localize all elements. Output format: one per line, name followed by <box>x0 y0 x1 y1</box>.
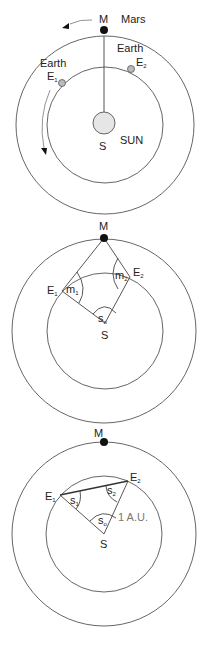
earth-e1-marker-label: E1 <box>45 490 56 503</box>
angle-s2-label: s2 <box>107 484 117 497</box>
earth-motion-arrowhead-icon <box>41 148 47 155</box>
earth-e2-name-label: Earth <box>117 42 143 54</box>
distance-au-label: 1 A.U. <box>118 511 148 523</box>
mars-marker-label: M <box>94 427 103 439</box>
earth-e1-marker-label: E1 <box>47 70 58 83</box>
earth-e2-planet-icon <box>128 66 135 73</box>
angle-arc-s0 <box>93 307 116 314</box>
mars-planet-icon <box>100 438 108 446</box>
sun-marker-label: S <box>99 140 106 152</box>
mars-marker-label: M <box>99 13 108 25</box>
earth-e2-marker-label: E2 <box>133 266 144 279</box>
mars-planet-icon <box>100 234 108 242</box>
parallax-diagram-figure: S SUN M Mars Earth E1 Earth E2 <box>0 0 206 647</box>
angle-m1-label: m1 <box>66 283 79 296</box>
diagram-orbits-overview: S SUN M Mars Earth E1 Earth E2 <box>16 13 194 214</box>
sun-icon <box>93 112 115 134</box>
earth-e2-marker-label: E2 <box>136 56 147 69</box>
mars-name-label: Mars <box>121 13 146 25</box>
angle-arc-m1 <box>77 272 83 303</box>
mars-motion-arrowhead-icon <box>62 23 69 29</box>
diagram-earth-triangle: M E1 E2 S s1 s2 so 1 A.U. <box>12 427 196 626</box>
sun-marker-label: S <box>100 538 107 550</box>
earth-e1-marker-label: E1 <box>47 284 58 297</box>
earth-e1-name-label: Earth <box>40 57 66 69</box>
mars-marker-label: M <box>99 220 108 232</box>
angle-s0-label: so <box>98 514 108 527</box>
sun-name-label: SUN <box>120 134 143 146</box>
sun-marker-label: S <box>101 329 108 341</box>
angle-s0-label: so <box>98 312 108 325</box>
line-e2-sun <box>105 277 130 323</box>
angle-s1-label: s1 <box>70 494 80 507</box>
earth-e1-planet-icon <box>59 80 66 87</box>
diagram-parallax-angles: M E1 E2 S m1 m2 so <box>12 220 196 423</box>
mars-motion-arc <box>70 20 92 24</box>
line-e1-e2 <box>60 481 128 495</box>
mars-planet-icon <box>100 26 108 34</box>
earth-e2-marker-label: E2 <box>130 471 141 484</box>
